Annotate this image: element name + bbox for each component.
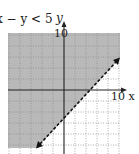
x-tick-label: 10 x <box>111 90 135 103</box>
y-tick-label: 10 <box>54 27 68 40</box>
y-axis-label: y <box>56 11 63 25</box>
chart-title: x − y < 5 <box>0 12 53 26</box>
